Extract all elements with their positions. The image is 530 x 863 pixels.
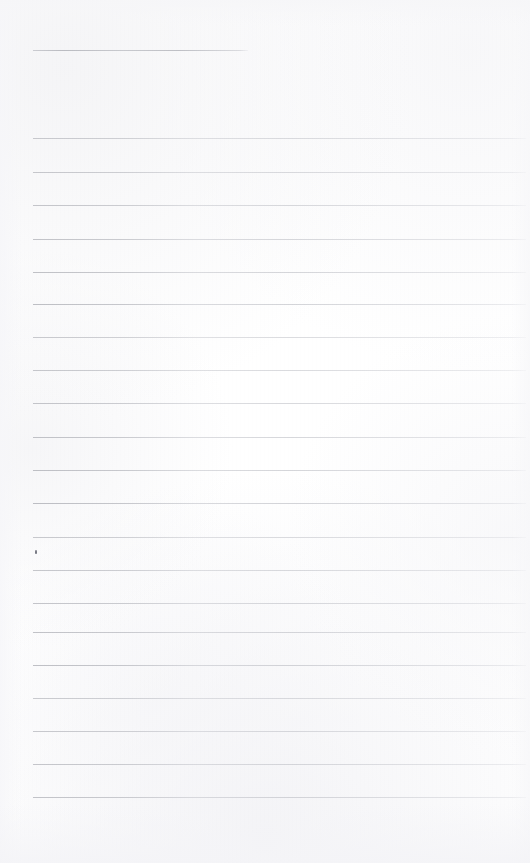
- ruled-line: [33, 205, 526, 206]
- ruled-line: [33, 665, 526, 666]
- ruled-line: [33, 632, 526, 633]
- ruled-line: [33, 603, 526, 604]
- ruled-line: [33, 172, 526, 173]
- ruled-line: [33, 764, 526, 765]
- ruled-line: [33, 797, 526, 798]
- ruled-line: [33, 370, 526, 371]
- ruled-line: [33, 503, 526, 504]
- notebook-page: [0, 0, 530, 863]
- ruled-line: [33, 138, 526, 139]
- ruled-line: [33, 470, 526, 471]
- ruled-line: [33, 537, 526, 538]
- ruled-line: [33, 403, 526, 404]
- ruled-line: [33, 272, 526, 273]
- ruled-line: [33, 570, 526, 571]
- ruled-line: [33, 698, 526, 699]
- pencil-dot: [35, 550, 37, 554]
- ruled-line: [33, 731, 526, 732]
- paper-texture-overlay: [0, 0, 530, 863]
- title-rule: [33, 50, 248, 51]
- ruled-line: [33, 437, 526, 438]
- ruled-line: [33, 337, 526, 338]
- page-edge-shading: [0, 0, 530, 863]
- ruled-line: [33, 304, 526, 305]
- ruled-line: [33, 239, 526, 240]
